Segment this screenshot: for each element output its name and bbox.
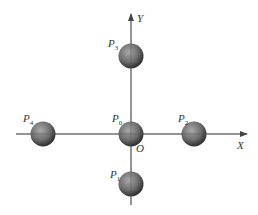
- label-p3: P3: [107, 37, 119, 52]
- label-p0: P0: [111, 112, 123, 127]
- x-axis-label: X: [236, 139, 245, 151]
- label-p4: P4: [22, 112, 34, 127]
- label-p2: P2: [177, 112, 189, 127]
- y-axis-label: Y: [137, 12, 145, 24]
- origin-label: O: [136, 142, 144, 154]
- coordinate-diagram: Y X O P3 P0 P2 P4 P1: [0, 0, 258, 215]
- label-p1: P1: [109, 168, 121, 183]
